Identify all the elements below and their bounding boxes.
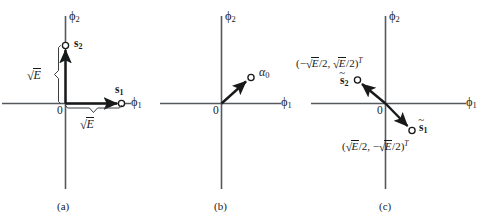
panel-b-x-axis-label: ϕ1 bbox=[281, 96, 292, 109]
panel-a-horizontal-brace bbox=[66, 106, 122, 113]
panel-b-point-alpha0 bbox=[248, 74, 254, 80]
panel-b-axes bbox=[160, 16, 281, 189]
panel-c-origin-label: 0 bbox=[377, 105, 383, 117]
panel-a-point-s2 bbox=[62, 42, 68, 48]
panel-c-vector-s2-tilde bbox=[354, 77, 385, 104]
panel-c-x-axis-label: ϕ1 bbox=[466, 96, 477, 109]
panel-b-vector-alpha0 bbox=[222, 74, 255, 103]
panel-c-vector-s1-tilde bbox=[386, 104, 416, 134]
panel-a-origin-label: 0 bbox=[57, 105, 63, 117]
figure-svg bbox=[0, 0, 480, 222]
panel-a-vector-s1 bbox=[66, 100, 125, 106]
panel-a-vertical-brace-label: √E bbox=[27, 68, 41, 82]
figure-container: ϕ2 ϕ1 0 s2 s1 √E √E (a) ϕ2 ϕ1 0 α0 (b) ϕ… bbox=[0, 0, 480, 222]
panel-b-y-axis-label: ϕ2 bbox=[225, 10, 236, 23]
panel-a-label-s2: s2 bbox=[74, 38, 82, 51]
panel-b-caption: (b) bbox=[214, 201, 227, 212]
panel-c-point-s2-tilde bbox=[354, 77, 360, 83]
panel-b-label-alpha0: α0 bbox=[259, 66, 270, 79]
panel-a-vertical-brace bbox=[55, 46, 61, 104]
panel-a-vector-s2 bbox=[62, 42, 68, 103]
panel-c-y-axis-label: ϕ2 bbox=[389, 10, 400, 23]
panel-c-label-s2-tilde: ~s2 bbox=[340, 75, 348, 88]
panel-c-point-s1-tilde bbox=[409, 127, 415, 133]
panel-a-y-axis-label: ϕ2 bbox=[69, 10, 80, 23]
panel-c-caption: (c) bbox=[379, 201, 391, 212]
panel-c-coord-s1-tilde: (√E/2, −√E/2)T bbox=[342, 140, 409, 153]
panel-c-label-s1-tilde: ~s1 bbox=[419, 122, 427, 135]
panel-a-caption: (a) bbox=[57, 201, 69, 212]
panel-a-horizontal-brace-label: √E bbox=[80, 117, 94, 131]
panel-a-label-s1: s1 bbox=[115, 84, 123, 97]
panel-c-axes bbox=[311, 16, 466, 189]
panel-c-coord-s2-tilde: (−√E/2, √E/2)T bbox=[296, 57, 363, 70]
panel-b-origin-label: 0 bbox=[213, 105, 219, 117]
panel-a-x-axis-label: ϕ1 bbox=[131, 96, 142, 109]
